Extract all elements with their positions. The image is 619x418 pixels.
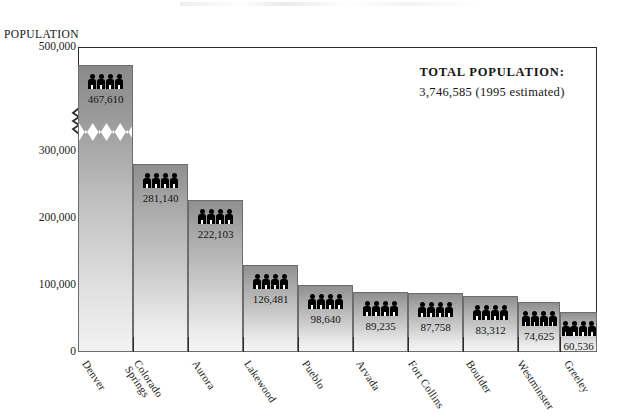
x-axis-label-line: Aurora <box>190 358 218 392</box>
person-icon <box>262 274 271 289</box>
x-axis-label-line: Boulder <box>464 358 495 395</box>
person-icon <box>308 294 317 309</box>
y-axis-tick-3: 100,000 <box>2 279 76 290</box>
person-icon <box>106 74 115 89</box>
person-icon <box>363 301 372 316</box>
people-icon-group <box>519 311 559 326</box>
person-icon <box>436 302 445 317</box>
x-axis-label-line: Greeley <box>562 358 592 395</box>
person-icon <box>548 311 557 326</box>
bar-value-label: 281,140 <box>134 192 187 204</box>
bar-denver: 467,610 <box>78 65 133 352</box>
x-axis-label-colorado-springs: ColoradoSprings <box>123 358 165 406</box>
x-axis-label-boulder: Boulder <box>464 358 495 395</box>
y-axis-tick-1: 300,000 <box>2 145 76 156</box>
x-axis-label-denver: Denver <box>80 358 109 393</box>
people-icon-group <box>189 209 242 224</box>
x-axis-label-greeley: Greeley <box>562 358 592 395</box>
person-icon <box>326 294 335 309</box>
bar-colorado-springs: 281,140 <box>133 164 188 352</box>
person-icon <box>521 311 530 326</box>
population-bar-chart: POPULATION 500,000300,000200,000100,0000… <box>0 0 619 418</box>
x-axis-label-aurora: Aurora <box>190 358 218 392</box>
people-icon-group <box>464 305 517 320</box>
person-icon <box>143 173 152 188</box>
category-separator-7 <box>518 337 519 352</box>
person-icon <box>115 74 124 89</box>
total-population-value: 3,746,585 (1995 estimated) <box>392 82 592 102</box>
person-icon <box>253 274 262 289</box>
total-population-label: TOTAL POPULATION: <box>392 62 592 82</box>
person-icon <box>152 173 161 188</box>
bar-value-label: 87,758 <box>409 321 462 333</box>
people-icon-group <box>354 301 407 316</box>
y-axis-tick-2: 200,000 <box>2 212 76 223</box>
person-icon <box>427 302 436 317</box>
bar-value-label: 126,481 <box>244 293 297 305</box>
bar-arvada: 89,235 <box>353 292 408 352</box>
people-icon-group <box>244 274 297 289</box>
x-axis-label-lakewood: Lakewood <box>242 358 279 405</box>
bar-boulder: 83,312 <box>463 296 518 352</box>
category-separator-3 <box>298 337 299 352</box>
x-axis-label-arvada: Arvada <box>354 358 383 393</box>
x-axis-label-line: Pueblo <box>300 358 328 391</box>
person-icon <box>88 74 97 89</box>
cropped-title-artifact <box>180 2 480 6</box>
person-icon <box>587 321 596 336</box>
person-icon <box>225 209 234 224</box>
bar-value-label: 74,625 <box>519 330 559 342</box>
bar-value-label: 60,536 <box>561 340 596 352</box>
person-icon <box>335 294 344 309</box>
person-icon <box>561 321 570 336</box>
bar-pueblo: 98,640 <box>298 285 353 352</box>
person-icon <box>161 173 170 188</box>
x-axis-label-westminster: Westminster <box>515 358 557 412</box>
bar-value-label: 98,640 <box>299 313 352 325</box>
person-icon <box>539 311 548 326</box>
category-separator-6 <box>463 337 464 352</box>
bar-westminster: 74,625 <box>518 302 560 352</box>
category-separator-4 <box>353 337 354 352</box>
people-icon-group <box>134 173 187 188</box>
person-icon <box>280 274 289 289</box>
person-icon <box>198 209 207 224</box>
category-separator-0 <box>133 337 134 352</box>
person-icon <box>97 74 106 89</box>
people-icon-group <box>299 294 352 309</box>
person-icon <box>530 311 539 326</box>
person-icon <box>500 305 509 320</box>
people-icon-group <box>79 74 132 89</box>
person-icon <box>390 301 399 316</box>
person-icon <box>216 209 225 224</box>
person-icon <box>570 321 579 336</box>
person-icon <box>482 305 491 320</box>
x-axis-label-line: Fort Collins <box>406 358 447 411</box>
bar-value-label: 222,103 <box>189 228 242 240</box>
people-icon-group <box>409 302 462 317</box>
person-icon <box>207 209 216 224</box>
person-icon <box>418 302 427 317</box>
person-icon <box>579 321 588 336</box>
bar-value-label: 89,235 <box>354 320 407 332</box>
x-axis-label-line: Westminster <box>515 358 557 412</box>
person-icon <box>491 305 500 320</box>
person-icon <box>381 301 390 316</box>
category-separator-2 <box>243 337 244 352</box>
x-axis-label-pueblo: Pueblo <box>300 358 328 391</box>
person-icon <box>372 301 381 316</box>
person-icon <box>445 302 454 317</box>
category-separator-5 <box>408 337 409 352</box>
bar-greeley: 60,536 <box>560 312 597 352</box>
y-axis-tick-4: 0 <box>2 346 76 357</box>
x-axis-label-line: Arvada <box>354 358 383 393</box>
bar-axis-break-band <box>79 123 132 141</box>
x-axis-label-fort-collins: Fort Collins <box>406 358 447 411</box>
x-axis-label-line: Lakewood <box>242 358 279 405</box>
y-axis-tick-labels: 500,000300,000200,000100,0000 <box>0 0 76 418</box>
bar-value-label: 83,312 <box>464 324 517 336</box>
bar-value-label: 467,610 <box>79 93 132 105</box>
category-separator-1 <box>188 337 189 352</box>
people-icon-group <box>561 321 596 336</box>
person-icon <box>473 305 482 320</box>
